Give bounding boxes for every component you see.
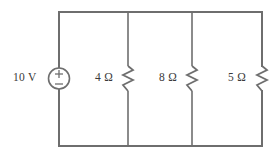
voltage-source-label: 10 V bbox=[13, 71, 37, 84]
resistor-r2-label: 8 Ω bbox=[159, 71, 177, 84]
resistor-r1-symbol bbox=[123, 66, 133, 91]
resistor-r1-label: 4 Ω bbox=[95, 71, 113, 84]
resistor-r2-symbol bbox=[187, 66, 197, 91]
resistor-r3-symbol bbox=[257, 66, 267, 91]
resistor-r3-label: 5 Ω bbox=[228, 71, 246, 84]
circuit-diagram: 10 V 4 Ω 8 Ω 5 Ω bbox=[0, 0, 280, 157]
